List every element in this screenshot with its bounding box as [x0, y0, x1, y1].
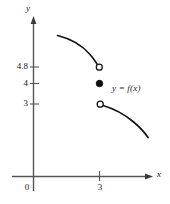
y-tick-label-4-8: 4.8: [2, 62, 28, 71]
filled-circle-function-value: [96, 80, 102, 86]
x-axis-label: x: [157, 170, 161, 179]
open-circle-left-limit: [96, 64, 102, 70]
origin-label: 0: [20, 183, 34, 192]
y-axis-arrowhead: [31, 16, 37, 24]
x-axis-arrowhead: [145, 174, 153, 180]
function-graph-figure: y x 4.8 4 3 3 0 y = f(x): [0, 0, 170, 204]
function-curve-label: y = f(x): [112, 84, 141, 93]
open-circle-right-limit: [97, 101, 103, 107]
curve-left-branch: [58, 36, 98, 66]
y-axis-label: y: [26, 4, 30, 13]
y-tick-label-3: 3: [2, 99, 28, 108]
x-tick-label-3: 3: [90, 183, 110, 192]
curve-right-branch: [103, 106, 148, 138]
y-tick-label-4: 4: [2, 79, 28, 88]
